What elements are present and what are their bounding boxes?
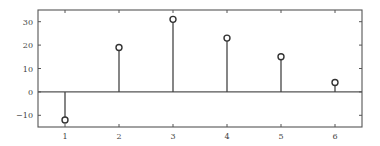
stems [65,19,335,120]
x-tick-label: 4 [224,132,229,141]
y-axis-ticks: −100102030 [16,18,362,121]
x-tick-label: 5 [278,132,283,141]
y-tick-label: 0 [28,88,33,97]
x-tick-label: 6 [332,132,337,141]
axes-frame [38,10,362,127]
y-tick-label: 30 [23,18,33,27]
x-tick-label: 3 [170,132,175,141]
stem-marker [62,117,68,123]
x-axis-ticks: 123456 [62,10,337,141]
stem-marker [278,54,284,60]
stem-marker [170,16,176,22]
stem-marker [116,44,122,50]
y-tick-label: −10 [16,111,33,120]
stem-marker [332,80,338,86]
x-tick-label: 2 [116,132,121,141]
stem-plot-svg: 123456 −100102030 [0,0,380,146]
stem-chart: 123456 −100102030 [0,0,380,146]
stem-marker [224,35,230,41]
plot-area-frame [38,10,362,127]
stem-markers [62,16,338,123]
x-tick-label: 1 [62,132,67,141]
y-tick-label: 20 [23,41,33,50]
y-tick-label: 10 [23,65,33,74]
